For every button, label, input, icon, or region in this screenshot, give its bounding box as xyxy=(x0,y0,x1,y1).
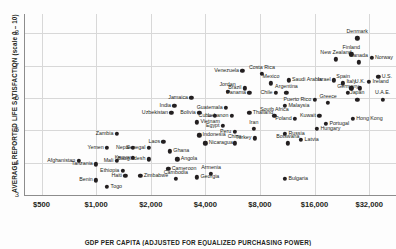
gridline-x-1000 xyxy=(96,14,97,196)
scatter-chart: AVERAGE REPORTED LIFE SATISFACTION (scal… xyxy=(0,0,396,249)
data-point-label: Benin xyxy=(79,178,93,183)
data-point xyxy=(174,177,178,181)
data-point-label: Kuwait xyxy=(300,113,316,118)
y-tick-label: 7 xyxy=(6,61,19,70)
data-point xyxy=(240,68,244,72)
data-point xyxy=(351,117,355,121)
data-point xyxy=(115,131,119,135)
data-point-label: Guatemala xyxy=(197,105,223,110)
data-point-label: Botswana xyxy=(276,134,299,139)
x-tick-label: $8,000 xyxy=(248,200,271,209)
data-point-label: U.A.E. xyxy=(375,91,390,96)
gridline-x-16000 xyxy=(315,14,316,196)
data-point-label: Chile xyxy=(260,91,272,96)
data-point-label: Nicaragua xyxy=(209,141,233,146)
data-point-label: Ghana xyxy=(173,149,189,154)
data-point-label: Venezuela xyxy=(214,68,239,73)
data-point xyxy=(224,106,228,110)
data-point xyxy=(94,178,98,182)
data-point-label: Costa Rica xyxy=(249,65,275,70)
data-point xyxy=(123,173,127,177)
x-tick-label: $32,000 xyxy=(355,200,382,209)
data-point xyxy=(299,138,303,142)
data-point xyxy=(197,133,201,137)
data-point xyxy=(105,185,109,189)
data-point-label: Laos xyxy=(149,139,161,144)
data-point xyxy=(172,104,176,108)
data-point xyxy=(253,136,257,140)
data-point xyxy=(161,140,165,144)
data-point xyxy=(369,55,373,59)
plot-area: 345678 $500$1,000$2,000$4,000$8,000$16,0… xyxy=(24,14,396,196)
data-point xyxy=(247,91,251,95)
data-point-label: Puerto Rico xyxy=(283,97,311,102)
data-point-label: Bulgaria xyxy=(288,176,307,181)
y-axis-line xyxy=(24,14,25,196)
data-point-label: Iran xyxy=(249,120,258,125)
data-point xyxy=(286,78,290,82)
data-point xyxy=(283,177,287,181)
data-point-label: Egypt xyxy=(206,123,220,128)
data-point-label: Tanzania xyxy=(72,162,93,167)
data-point xyxy=(274,91,278,95)
data-point xyxy=(326,101,330,105)
data-point-label: Latvia xyxy=(305,137,319,142)
data-point-label: Lebanon xyxy=(208,113,229,118)
data-point-label: New Zealand xyxy=(320,50,351,55)
y-tick-label: 5 xyxy=(6,125,19,134)
data-point-label: India xyxy=(160,103,172,108)
y-tick-label: 3 xyxy=(6,190,19,199)
data-point xyxy=(356,60,360,64)
data-point-label: Israel xyxy=(318,78,331,83)
data-point-label: Cambodia xyxy=(164,170,188,175)
x-tick-label: $500 xyxy=(33,200,50,209)
data-point-label: Bangladesh xyxy=(117,157,145,162)
data-point-label: Togo xyxy=(111,184,123,189)
data-point xyxy=(355,97,359,101)
x-axis-line xyxy=(24,195,396,196)
data-point-label: Ireland xyxy=(373,79,389,84)
data-point xyxy=(293,117,297,121)
data-point-label: Hong Kong xyxy=(356,116,383,121)
data-point xyxy=(221,123,225,127)
data-point xyxy=(138,173,142,177)
data-point xyxy=(168,149,172,153)
data-point xyxy=(195,175,199,179)
y-tick-label: 4 xyxy=(6,158,19,167)
data-point xyxy=(381,97,385,101)
data-point-label: Haiti xyxy=(111,173,122,178)
data-point xyxy=(230,114,234,118)
data-point-label: Canada xyxy=(349,54,368,59)
y-tick-label: 6 xyxy=(6,93,19,102)
data-point-label: Greece xyxy=(319,94,336,99)
data-point-label: Mexico xyxy=(263,75,280,80)
data-point-label: U.K. xyxy=(355,79,365,84)
gridline-x-2000 xyxy=(151,14,152,196)
data-point-label: Armenia xyxy=(201,165,221,170)
data-point-label: Panama xyxy=(226,91,246,96)
data-point-label: Poland xyxy=(275,116,292,121)
data-point-label: Bolivia xyxy=(180,110,196,115)
data-point-label: U.S. xyxy=(382,74,392,79)
x-tick-label: $1,000 xyxy=(85,200,108,209)
data-point-label: Turkey xyxy=(235,136,251,141)
x-tick-label: $2,000 xyxy=(139,200,162,209)
data-point xyxy=(203,141,207,145)
data-point xyxy=(247,110,251,114)
data-point-label: Uzbekistan xyxy=(142,110,168,115)
data-point xyxy=(94,162,98,166)
data-point-label: Yemen xyxy=(87,145,103,150)
data-point-label: Portugal xyxy=(329,121,349,126)
x-tick-label: $16,000 xyxy=(301,200,328,209)
data-point xyxy=(189,96,193,100)
data-point-label: Angola xyxy=(181,157,198,162)
data-point xyxy=(317,114,321,118)
data-point xyxy=(355,36,359,40)
gridline-y-8 xyxy=(24,33,396,34)
data-point xyxy=(175,157,179,161)
data-point-label: Mali xyxy=(104,158,114,163)
data-point xyxy=(284,91,288,95)
data-point xyxy=(286,141,290,145)
data-point-label: Zambia xyxy=(96,131,114,136)
data-point-label: South Africa xyxy=(260,107,289,112)
